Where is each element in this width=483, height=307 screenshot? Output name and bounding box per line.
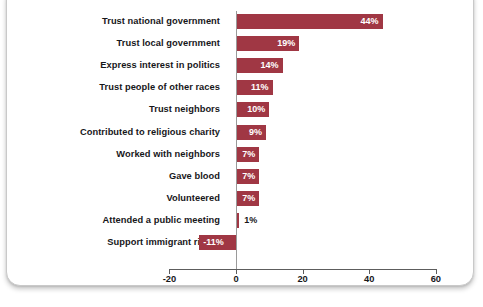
bar-value-label: -11% [203,235,224,250]
x-tick-label: 0 [216,274,256,284]
zero-baseline [236,11,237,269]
bar-value-label: 11% [247,80,269,95]
bar-value-label: 1% [244,213,257,228]
bar-value-label: 10% [243,102,265,117]
bars-area: 44%19%14%11%10%9%7%7%7%1%-11% [0,0,483,270]
bar-value-label: 14% [257,58,279,73]
bar-value-label: 19% [273,36,295,51]
x-tick-label: -20 [149,274,189,284]
bar-value-label: 9% [240,125,262,140]
x-tick-label: 60 [416,274,456,284]
x-tick-label: 20 [283,274,323,284]
bar-value-label: 44% [357,14,379,29]
x-tick-label: 40 [349,274,389,284]
bar-chart: Trust national governmentTrust local gov… [0,0,483,307]
